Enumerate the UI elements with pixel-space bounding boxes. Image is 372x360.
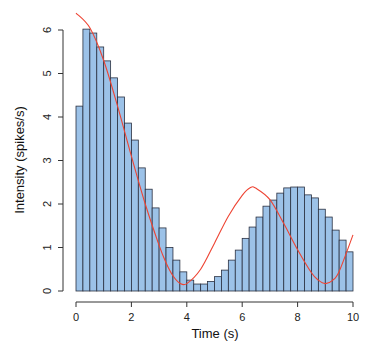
y-tick-label: 3 bbox=[41, 157, 53, 163]
histogram-bar bbox=[201, 284, 208, 291]
histogram-bar bbox=[318, 209, 325, 291]
y-tick-label: 6 bbox=[41, 27, 53, 33]
x-tick-label: 4 bbox=[184, 311, 190, 323]
x-axis: 0246810 bbox=[73, 302, 359, 323]
histogram-bar bbox=[242, 238, 249, 291]
y-tick-label: 2 bbox=[41, 201, 53, 207]
histogram-bar bbox=[332, 230, 339, 291]
y-tick-label: 4 bbox=[41, 114, 53, 120]
histogram-bar bbox=[270, 200, 277, 291]
histogram-bar bbox=[339, 240, 346, 291]
histogram-bar bbox=[221, 270, 228, 291]
histogram-bar bbox=[152, 208, 159, 291]
y-tick-label: 0 bbox=[41, 288, 53, 294]
y-tick-label: 1 bbox=[41, 244, 53, 250]
x-tick-label: 2 bbox=[128, 311, 134, 323]
y-axis: 0123456 bbox=[41, 27, 63, 294]
histogram-bar bbox=[284, 188, 291, 291]
histogram-bar bbox=[90, 33, 97, 291]
histogram-bar bbox=[277, 193, 284, 291]
histogram-bar bbox=[194, 284, 201, 291]
histogram-bar bbox=[104, 61, 111, 291]
x-axis-title: Time (s) bbox=[191, 326, 238, 341]
histogram-bar bbox=[228, 260, 235, 291]
histogram-bar bbox=[346, 252, 353, 291]
histogram-bar bbox=[208, 281, 215, 291]
x-tick-label: 0 bbox=[73, 311, 79, 323]
histogram-bar bbox=[298, 187, 305, 291]
bars-group bbox=[76, 29, 353, 291]
histogram-bar bbox=[256, 217, 263, 291]
histogram-bar bbox=[235, 250, 242, 291]
histogram-bar bbox=[111, 78, 118, 291]
x-tick-label: 10 bbox=[347, 311, 359, 323]
histogram-bar bbox=[145, 189, 152, 291]
histogram-bar bbox=[187, 280, 194, 291]
histogram-bar bbox=[131, 140, 138, 291]
x-tick-label: 8 bbox=[295, 311, 301, 323]
histogram-bar bbox=[215, 277, 222, 291]
histogram-bar bbox=[138, 168, 145, 291]
histogram-bar bbox=[83, 29, 90, 291]
y-axis-title: Intensity (spikes/s) bbox=[12, 106, 27, 214]
histogram-bar bbox=[173, 260, 180, 291]
histogram-bar bbox=[325, 217, 332, 291]
histogram-bar bbox=[124, 123, 131, 291]
histogram-bar bbox=[76, 106, 83, 291]
x-tick-label: 6 bbox=[239, 311, 245, 323]
histogram-bar bbox=[180, 272, 187, 291]
histogram-bar bbox=[249, 227, 256, 291]
histogram-bar bbox=[263, 206, 270, 291]
y-tick-label: 5 bbox=[41, 70, 53, 76]
histogram-bar bbox=[97, 47, 104, 291]
histogram-bar bbox=[305, 195, 312, 291]
histogram-chart: 0123456 0246810 Time (s) Intensity (spik… bbox=[0, 0, 372, 360]
